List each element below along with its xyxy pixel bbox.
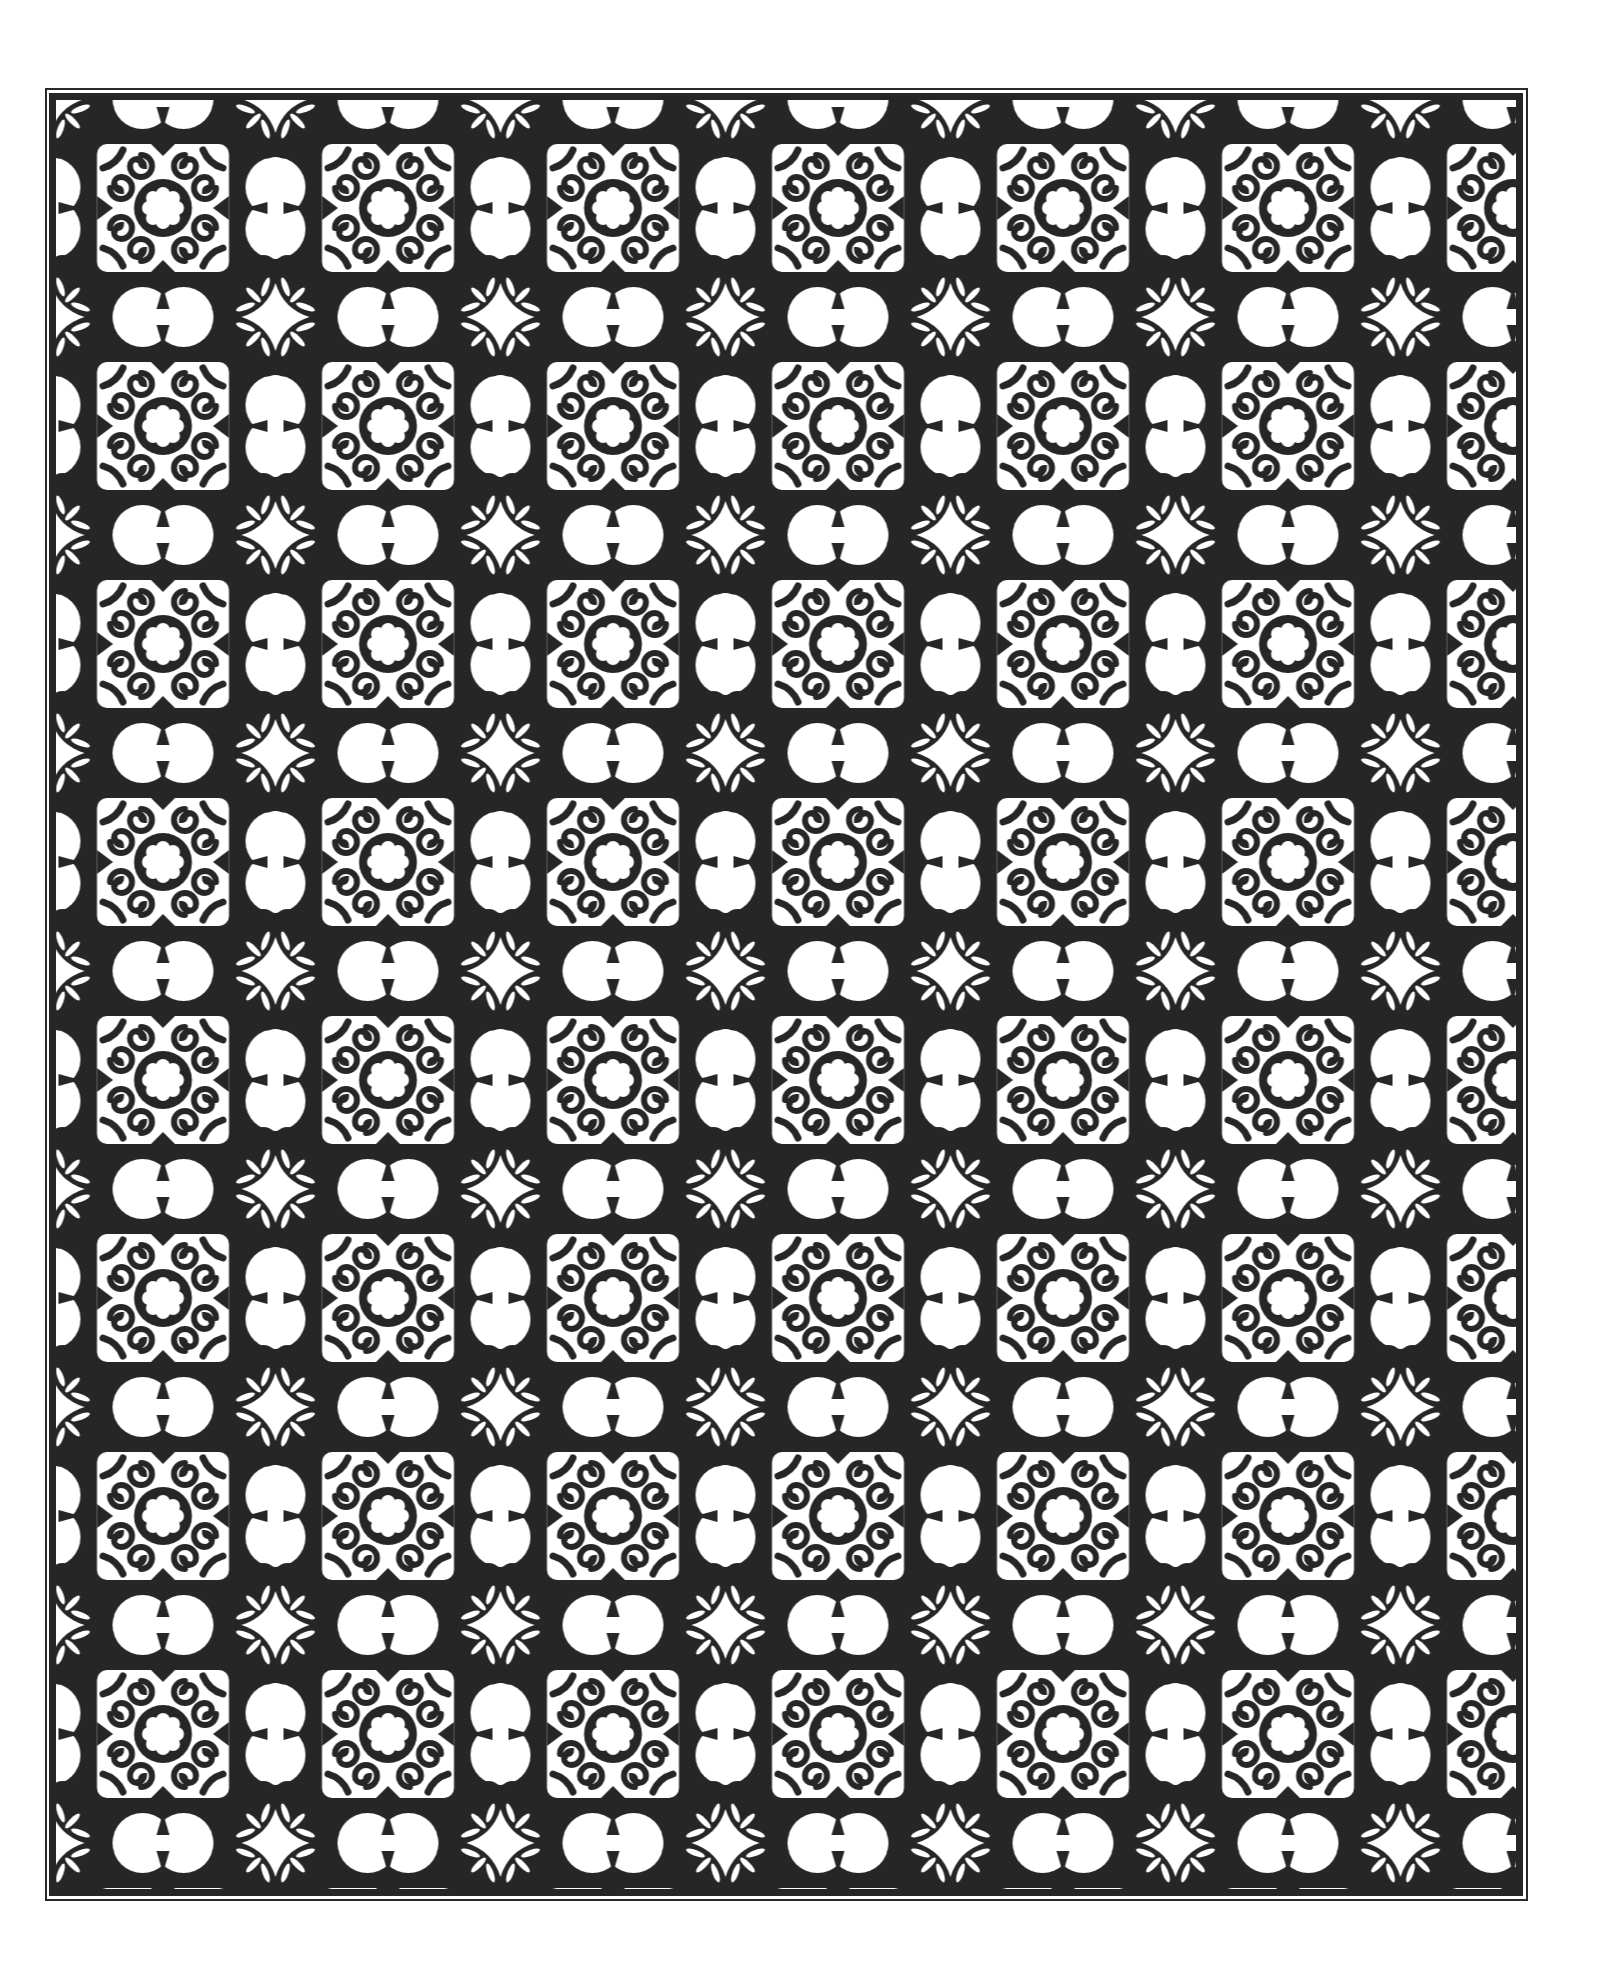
ornamental-pattern [56,100,1516,1889]
coloring-page: Ornamental tile pattern coloring page [0,0,1602,1979]
pattern-fill [56,100,1516,1889]
